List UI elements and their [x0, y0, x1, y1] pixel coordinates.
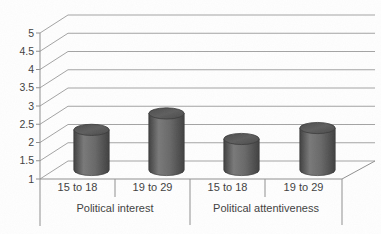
cylinder-bar-chart-figure: 54.543.532.521.5115 to 1819 to 2915 to 1… [0, 0, 381, 234]
scan-noise-overlay [0, 0, 381, 234]
document-page: 54.543.532.521.5115 to 1819 to 2915 to 1… [0, 0, 381, 234]
chart-canvas: 54.543.532.521.5115 to 1819 to 2915 to 1… [0, 0, 381, 234]
